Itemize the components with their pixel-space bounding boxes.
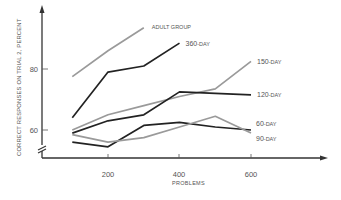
xtick-label-200: 200: [102, 170, 115, 179]
series-labels: ADULT GROUP360-DAY150-DAY120-DAY60-DAY90…: [152, 24, 282, 142]
xtick-label-600: 600: [245, 170, 258, 179]
y-axis-label: CORRECT RESPONSES ON TRIAL 2, PERCENT: [16, 18, 22, 156]
x-axis-arrow-icon: [320, 156, 328, 161]
series-line-60-day: [72, 122, 251, 146]
series-label: 120-DAY: [257, 91, 282, 98]
series-label: 150-DAY: [257, 58, 282, 65]
series-label: 360-DAY: [186, 40, 211, 47]
chart-canvas: 80 60 200 400 600 PROBLEMS CORRECT RESPO…: [0, 0, 341, 200]
x-axis-label: PROBLEMS: [172, 180, 205, 186]
series-label: ADULT GROUP: [152, 24, 192, 30]
series-label: 60-DAY: [256, 120, 277, 127]
line-chart: 80 60 200 400 600 PROBLEMS CORRECT RESPO…: [0, 0, 341, 200]
series-group: [72, 28, 251, 147]
xtick-label-400: 400: [173, 170, 186, 179]
ytick-label-60: 60: [30, 126, 38, 135]
series-line-adult-group: [72, 28, 144, 77]
series-label: 90-DAY: [256, 135, 277, 142]
series-line-90-day: [72, 116, 251, 142]
y-axis-arrow-icon: [40, 5, 45, 13]
ytick-label-80: 80: [30, 65, 38, 74]
series-line-360-day: [72, 43, 179, 118]
